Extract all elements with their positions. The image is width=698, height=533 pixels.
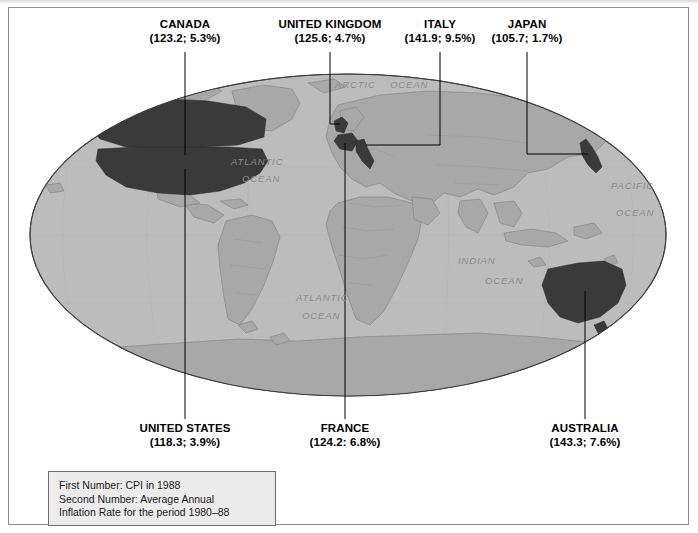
callout-japan-value: (105.7; 1.7%) (467, 31, 587, 45)
callout-canada-value: (123.2; 5.3%) (115, 31, 255, 45)
legend-box: First Number: CPI in 1988 Second Number:… (48, 471, 276, 526)
callout-japan-name: JAPAN (467, 17, 587, 31)
ocean-label-south-atlantic-line2: OCEAN (302, 310, 340, 321)
callout-united-states-name: UNITED STATES (115, 421, 255, 435)
callout-canada-name: CANADA (115, 17, 255, 31)
callout-australia-name: AUSTRALIA (525, 421, 645, 435)
callout-france-name: FRANCE (285, 421, 405, 435)
ocean-label-south-atlantic-line1: ATLANTIC (296, 292, 348, 303)
new-zealand (626, 311, 642, 337)
ocean-label-pacific-line2: OCEAN (616, 207, 654, 218)
country-canada (88, 99, 266, 149)
ocean-label-indian-line2: OCEAN (485, 275, 523, 286)
top-edge-stripe (0, 0, 698, 4)
callout-japan: JAPAN (105.7; 1.7%) (467, 17, 587, 45)
ocean-label-north-atlantic-line2: OCEAN (242, 173, 280, 184)
map-stage: CANADA (123.2; 5.3%) UNITED KINGDOM (125… (8, 7, 689, 525)
callout-united-states-value: (118.3; 3.9%) (115, 435, 255, 449)
ocean-label-indian-line1: INDIAN (458, 255, 496, 266)
country-alaska (52, 115, 100, 141)
callout-australia: AUSTRALIA (143.3; 7.6%) (525, 421, 645, 449)
callout-france: FRANCE (124.2: 6.8%) (285, 421, 405, 449)
legend-line-1: First Number: CPI in 1988 (59, 479, 275, 493)
callout-canada: CANADA (123.2; 5.3%) (115, 17, 255, 45)
ocean-label-north-atlantic-line1: ATLANTIC (231, 156, 283, 167)
callout-united-states: UNITED STATES (118.3; 3.9%) (115, 421, 255, 449)
legend-line-2: Second Number: Average Annual (59, 493, 275, 507)
ocean-label-arctic-line1: ARCTIC (335, 79, 376, 90)
ocean-label-pacific-line1: PACIFIC (611, 180, 654, 191)
callout-france-value: (124.2: 6.8%) (285, 435, 405, 449)
callout-australia-value: (143.3; 7.6%) (525, 435, 645, 449)
legend-line-3: Inflation Rate for the period 1980–88 (59, 506, 275, 520)
ocean-label-arctic-line2: OCEAN (390, 79, 428, 90)
